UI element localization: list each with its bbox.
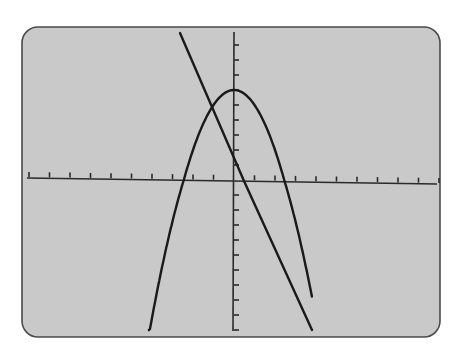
calculator-graph-screen <box>0 0 466 359</box>
